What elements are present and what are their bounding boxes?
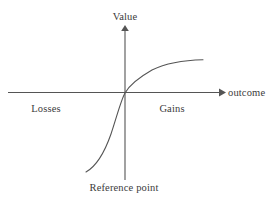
figure-canvas — [0, 0, 272, 203]
value-function-figure: Value outcome Losses Gains Reference poi… — [0, 0, 272, 203]
x-axis — [8, 89, 226, 97]
x-axis-arrowhead-icon — [219, 89, 226, 97]
value-function-curve — [86, 60, 203, 172]
x-axis-label: outcome — [228, 87, 265, 98]
y-axis-label: Value — [113, 11, 138, 22]
y-axis-arrowhead-icon — [121, 25, 129, 31]
y-axis — [121, 25, 129, 180]
reference-point-label: Reference point — [89, 182, 158, 193]
gains-region-label: Gains — [159, 103, 184, 114]
value-curve-path — [86, 60, 203, 172]
losses-region-label: Losses — [31, 103, 60, 114]
